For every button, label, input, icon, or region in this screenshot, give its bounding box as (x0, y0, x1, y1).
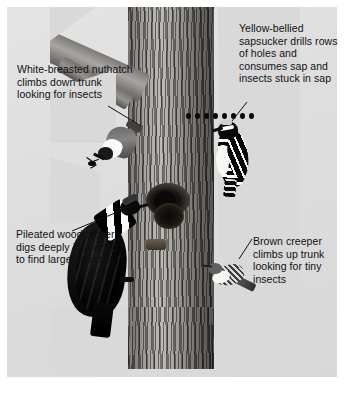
pileated-woodpecker (62, 199, 144, 339)
white-breasted-nuthatch (96, 127, 140, 169)
callout-pileated-woodpecker: Pileated woodpecker digs deeply into woo… (16, 228, 126, 266)
bird-foraging-figure: White-breasted nuthatch climbs down trun… (0, 0, 350, 397)
tree-trunk-lower (132, 307, 212, 369)
sapsucker-tail (223, 178, 237, 197)
callout-brown-creeper: Brown creeper climbs up trunk looking fo… (253, 235, 345, 285)
branch-stub (146, 239, 166, 250)
callout-white-breasted-nuthatch: White-breasted nuthatch climbs down trun… (17, 63, 135, 101)
sap-hole (204, 113, 209, 119)
sap-hole (186, 113, 191, 119)
callout-yellow-bellied-sapsucker: Yellow-bellied sapsucker drills rows of … (239, 22, 343, 85)
woodpecker-tail (90, 302, 114, 338)
yellow-bellied-sapsucker (210, 119, 254, 197)
tree-cavity-secondary (154, 203, 184, 229)
brown-creeper (206, 257, 258, 309)
insect-prey (86, 159, 99, 168)
woodpecker-foot (120, 277, 134, 282)
sap-hole (195, 113, 200, 119)
